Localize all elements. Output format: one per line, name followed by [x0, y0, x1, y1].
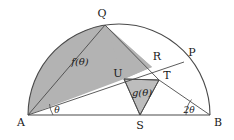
figure-canvas: A B Q P R T U S f(θ) g(θ) θ 2θ — [0, 0, 234, 140]
angle-label-theta: θ — [54, 105, 60, 115]
point-label-S: S — [136, 119, 144, 132]
point-label-U: U — [113, 67, 122, 80]
region-label-g-theta: g(θ) — [132, 87, 152, 98]
point-label-B: B — [214, 116, 222, 129]
point-label-R: R — [153, 50, 162, 63]
point-label-Q: Q — [97, 7, 106, 20]
point-label-P: P — [188, 46, 196, 59]
point-label-A: A — [16, 116, 26, 129]
angle-label-two-theta: 2θ — [182, 105, 195, 115]
geometry-figure: A B Q P R T U S f(θ) g(θ) θ 2θ — [0, 0, 234, 140]
point-label-T: T — [163, 69, 171, 82]
region-label-f-theta: f(θ) — [70, 56, 89, 67]
